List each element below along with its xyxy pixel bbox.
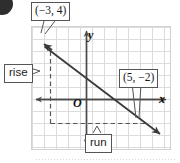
scan-artifact bbox=[36, 159, 176, 160]
callout-point-a: (−3, 4) bbox=[31, 2, 70, 21]
callout-point-b: (5, −2) bbox=[119, 69, 158, 88]
figure-root: y x O (−3, 4) (5, −2) rise run bbox=[0, 0, 180, 163]
callout-rise: rise bbox=[4, 64, 33, 83]
callout-run: run bbox=[85, 134, 112, 153]
coordinate-plane bbox=[31, 26, 171, 150]
origin-label: O bbox=[73, 96, 82, 111]
plot-area bbox=[32, 27, 172, 151]
graphed-line bbox=[44, 44, 160, 134]
y-axis-label: y bbox=[88, 28, 93, 43]
x-axis-label: x bbox=[159, 92, 165, 107]
exercise-bullet-marker bbox=[0, 0, 13, 15]
